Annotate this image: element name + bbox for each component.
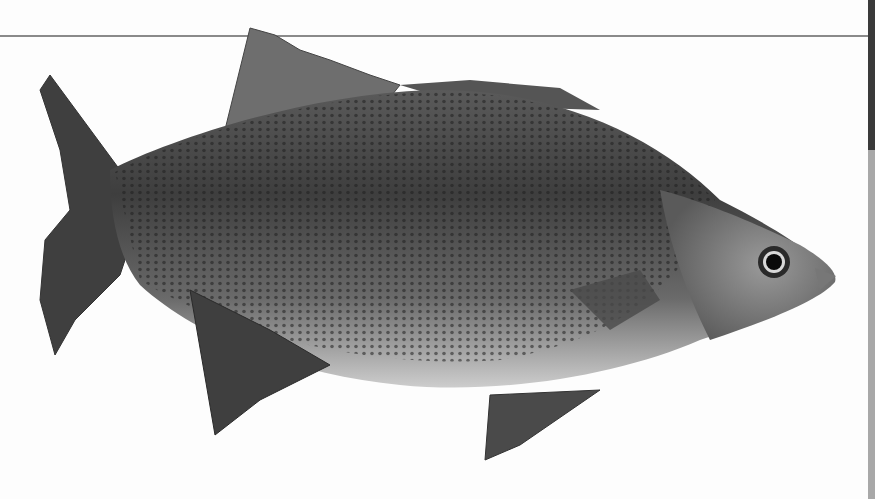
photo-stage xyxy=(0,0,875,499)
pelvic-fin xyxy=(485,390,600,460)
fish-image xyxy=(0,0,875,499)
